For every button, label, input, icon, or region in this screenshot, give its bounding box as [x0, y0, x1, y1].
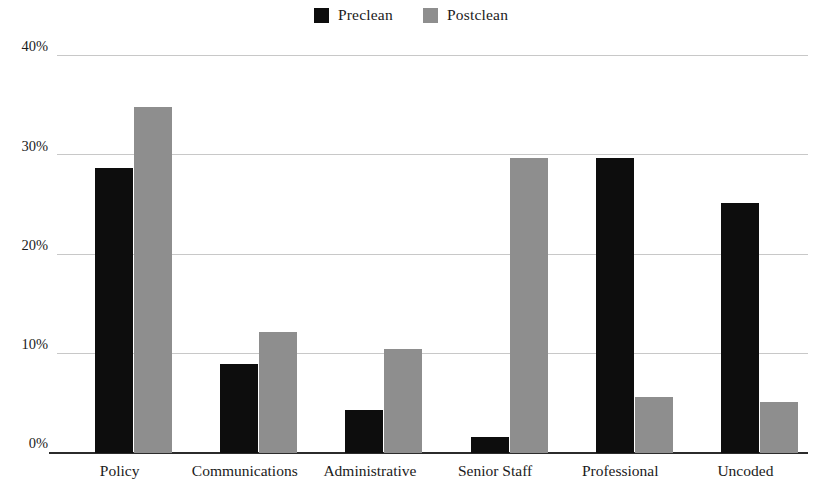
legend-swatch-postclean [423, 8, 438, 23]
bar-postclean-senior-staff [510, 158, 548, 453]
bar-group [182, 56, 307, 453]
x-axis-labels: PolicyCommunicationsAdministrativeSenior… [57, 462, 808, 492]
bar-preclean-communications [220, 364, 258, 453]
bar-postclean-professional [635, 397, 673, 453]
bar-preclean-senior-staff [471, 437, 509, 453]
y-axis-tick-label: 20% [21, 236, 48, 253]
bar-postclean-communications [259, 332, 297, 453]
legend-label-preclean: Preclean [338, 6, 393, 24]
bar-preclean-administrative [345, 410, 383, 453]
x-axis-tick-label: Policy [100, 462, 140, 480]
y-axis-tick-label: 40% [21, 38, 48, 55]
legend-label-postclean: Postclean [447, 6, 508, 24]
bar-groups [57, 56, 808, 453]
bar-group [558, 56, 683, 453]
bar-preclean-uncoded [721, 203, 759, 453]
y-axis-tick-label: 0% [29, 435, 48, 452]
bar-group [57, 56, 182, 453]
legend-entry-preclean: Preclean [314, 6, 393, 24]
bar-postclean-uncoded [760, 402, 798, 453]
y-axis-tick-label: 10% [21, 336, 48, 353]
bar-group [433, 56, 558, 453]
plot-area: 0%10%20%30%40% [57, 56, 808, 453]
x-axis-tick-label: Professional [582, 462, 659, 480]
bar-preclean-policy [95, 168, 133, 453]
x-axis-tick-label: Administrative [323, 462, 416, 480]
bar-chart: Preclean Postclean 0%10%20%30%40% Policy… [0, 0, 822, 498]
y-axis-tick-label: 30% [21, 137, 48, 154]
bar-group [307, 56, 432, 453]
bar-preclean-professional [596, 158, 634, 453]
bar-postclean-administrative [384, 349, 422, 453]
bar-group [683, 56, 808, 453]
x-axis-tick-label: Communications [192, 462, 298, 480]
bar-postclean-policy [134, 107, 172, 453]
x-axis-tick-label: Senior Staff [458, 462, 532, 480]
chart-legend: Preclean Postclean [0, 6, 822, 24]
legend-entry-postclean: Postclean [423, 6, 508, 24]
legend-swatch-preclean [314, 8, 329, 23]
x-axis-tick-label: Uncoded [717, 462, 773, 480]
